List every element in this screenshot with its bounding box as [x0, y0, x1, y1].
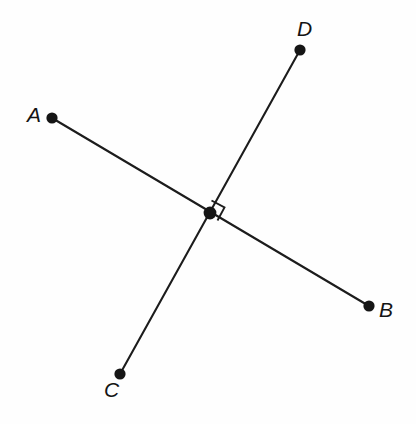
point-b-dot	[363, 300, 374, 311]
point-d-label: D	[297, 18, 312, 39]
point-b-label: B	[379, 299, 393, 320]
point-d-dot	[294, 44, 305, 55]
point-a-label: A	[27, 104, 41, 125]
point-c-label: C	[104, 379, 119, 400]
figure-svg	[0, 0, 416, 424]
geometry-diagram: A B C D	[0, 0, 416, 424]
intersection-point-dot	[204, 207, 217, 220]
point-a-dot	[46, 112, 57, 123]
